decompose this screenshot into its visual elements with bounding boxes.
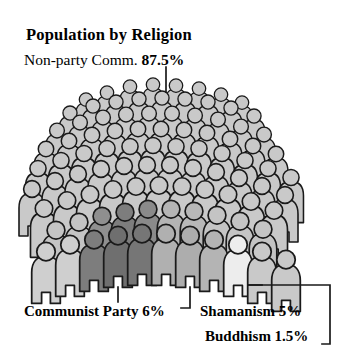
leader-shamanism [181, 287, 190, 308]
label-communist-party: Communist Party 6% [24, 303, 165, 320]
crowd-illustration [0, 0, 343, 352]
label-shamanism: Shamanism 5% [200, 303, 301, 320]
label-buddhism: Buddhism 1.5% [205, 328, 308, 345]
pictogram-chart: Population by Religion Non-party Comm. 8… [0, 0, 343, 352]
